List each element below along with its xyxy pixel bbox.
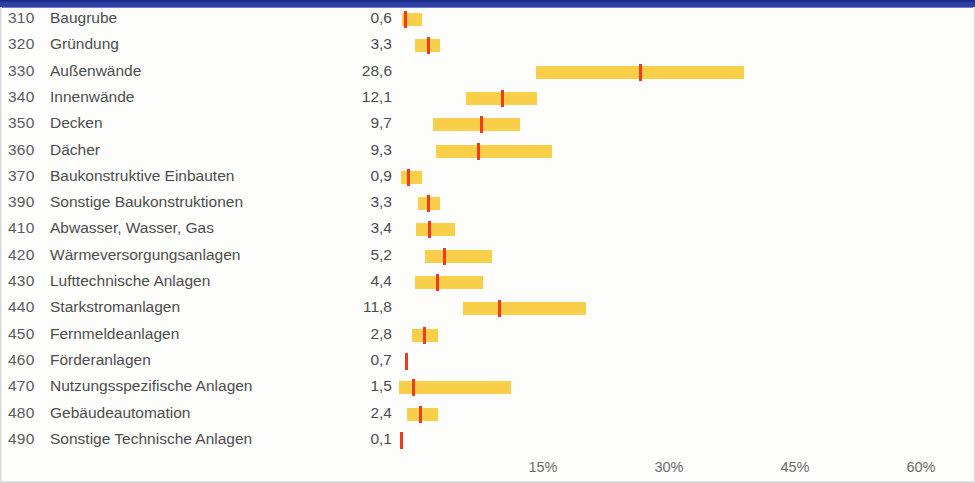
row-bar-track [0, 219, 975, 245]
row-bar-track [0, 377, 975, 403]
table-row: 390Sonstige Baukonstruktionen3,3 [0, 193, 975, 219]
median-marker [419, 406, 422, 423]
median-marker [436, 274, 439, 291]
median-marker [480, 116, 483, 133]
median-marker [404, 11, 407, 28]
row-bar-track [0, 9, 975, 35]
table-row: 350Decken9,7 [0, 114, 975, 140]
median-marker [498, 300, 501, 317]
table-row: 490Sonstige Technische Anlagen0,1 [0, 430, 975, 456]
row-bar-track [0, 430, 975, 456]
range-bar [399, 381, 511, 394]
row-bar-track [0, 88, 975, 114]
range-bar [425, 250, 492, 263]
x-axis-tick-label: 60% [906, 459, 935, 475]
median-marker [407, 169, 410, 186]
range-bar [433, 118, 520, 131]
median-marker [405, 353, 408, 370]
table-row: 430Lufttechnische Anlagen4,4 [0, 272, 975, 298]
x-axis-tick-label: 30% [654, 459, 683, 475]
range-bar [416, 223, 455, 236]
scanned-page: 15%30%45%60% 310Baugrube0,6320Gründung3,… [0, 0, 975, 483]
range-bar [436, 145, 552, 158]
table-row: 420Wärmeversorgungsanlagen5,2 [0, 246, 975, 272]
row-bar-track [0, 35, 975, 61]
median-marker [501, 90, 504, 107]
range-bar [407, 408, 437, 421]
table-row: 320Gründung3,3 [0, 35, 975, 61]
row-bar-track [0, 141, 975, 167]
row-bar-track [0, 404, 975, 430]
row-bar-track [0, 325, 975, 351]
row-bar-track [0, 167, 975, 193]
table-row: 440Starkstromanlagen11,8 [0, 298, 975, 324]
median-marker [443, 248, 446, 265]
x-axis-tick-label: 45% [780, 459, 809, 475]
x-axis: 15%30%45%60% [0, 459, 975, 483]
median-marker [639, 64, 642, 81]
table-row: 450Fernmeldeanlagen2,8 [0, 325, 975, 351]
median-marker [412, 379, 415, 396]
table-row: 360Dächer9,3 [0, 141, 975, 167]
table-row: 370Baukonstruktive Einbauten0,9 [0, 167, 975, 193]
table-row: 480Gebäudeautomation2,4 [0, 404, 975, 430]
median-marker [423, 327, 426, 344]
row-bar-track [0, 62, 975, 88]
median-marker [477, 143, 480, 160]
median-marker [427, 37, 430, 54]
row-bar-track [0, 246, 975, 272]
row-bar-track [0, 298, 975, 324]
median-marker [400, 432, 403, 449]
cost-range-chart: 15%30%45%60% 310Baugrube0,6320Gründung3,… [0, 7, 975, 483]
table-row: 330Außenwände28,6 [0, 62, 975, 88]
table-row: 310Baugrube0,6 [0, 9, 975, 35]
median-marker [427, 195, 430, 212]
median-marker [428, 221, 431, 238]
table-row: 470Nutzungsspezifische Anlagen1,5 [0, 377, 975, 403]
table-row: 460Förderanlagen0,7 [0, 351, 975, 377]
range-bar [463, 302, 586, 315]
row-bar-track [0, 351, 975, 377]
range-bar [415, 276, 483, 289]
table-row: 340Innenwände12,1 [0, 88, 975, 114]
row-bar-track [0, 272, 975, 298]
row-bar-track [0, 193, 975, 219]
row-bar-track [0, 114, 975, 140]
range-bar [401, 171, 422, 184]
x-axis-tick-label: 15% [528, 459, 557, 475]
table-row: 410Abwasser, Wasser, Gas3,4 [0, 219, 975, 245]
